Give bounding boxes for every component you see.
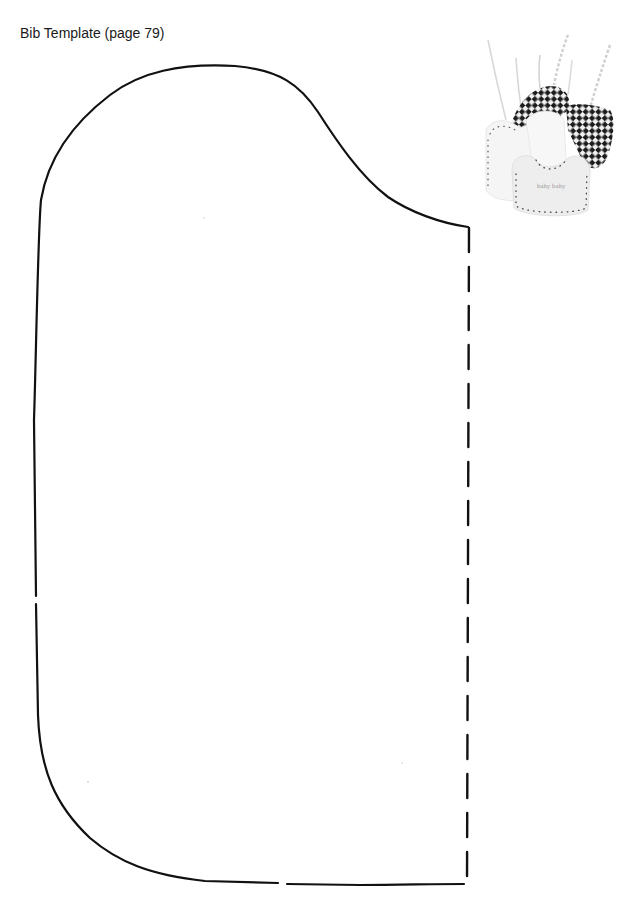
- finished-bibs-photo: baby baby: [468, 10, 630, 220]
- fold-line-dashed: [467, 228, 469, 884]
- cut-line-bottom: [287, 884, 464, 885]
- bib-embroidered-text: baby baby: [537, 183, 566, 190]
- cut-line-outline: [34, 65, 468, 596]
- cut-line-lower: [36, 604, 278, 883]
